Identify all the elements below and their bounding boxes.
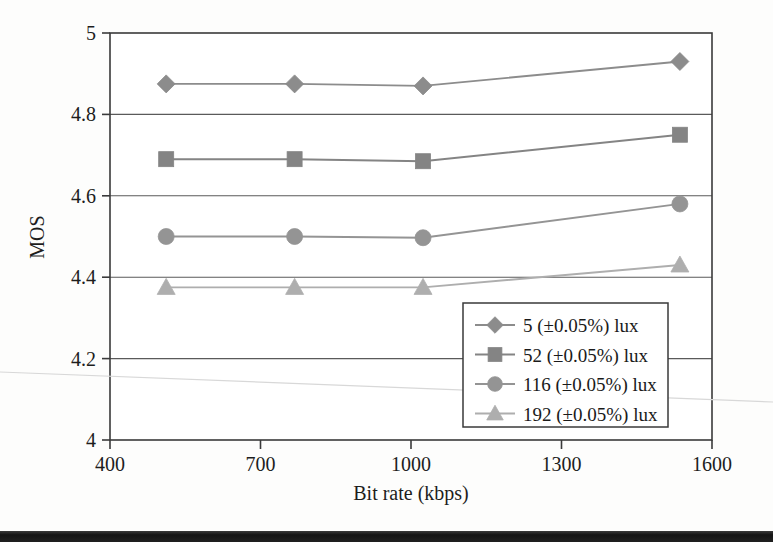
x-tick-label: 1000 xyxy=(391,453,431,475)
y-tick-label: 5 xyxy=(86,22,96,44)
legend-item-label: 5 (±0.05%) lux xyxy=(523,315,639,337)
circle-marker xyxy=(415,230,431,246)
legend-item-label: 52 (±0.05%) lux xyxy=(523,345,648,367)
scan-edge-bar xyxy=(0,531,773,542)
legend: 5 (±0.05%) lux52 (±0.05%) lux116 (±0.05%… xyxy=(463,303,668,427)
legend-item-label: 116 (±0.05%) lux xyxy=(523,374,657,396)
circle-marker xyxy=(672,196,688,212)
square-marker xyxy=(159,152,174,167)
x-axis-title: Bit rate (kbps) xyxy=(353,482,469,505)
circle-marker xyxy=(287,229,303,245)
y-tick-label: 4.4 xyxy=(71,266,96,288)
square-marker xyxy=(672,127,687,142)
legend-item-label: 192 (±0.05%) lux xyxy=(523,404,658,426)
y-axis-title: MOS xyxy=(26,215,48,258)
y-tick-label: 4.8 xyxy=(71,103,96,125)
square-marker xyxy=(416,154,431,169)
x-tick-label: 700 xyxy=(246,453,276,475)
x-tick-label: 1300 xyxy=(542,453,582,475)
chart-plot: 44.24.44.64.85 400700100013001600 MOS Bi… xyxy=(0,0,773,542)
y-tick-label: 4.6 xyxy=(71,185,96,207)
figure-canvas: 44.24.44.64.85 400700100013001600 MOS Bi… xyxy=(0,0,773,542)
square-marker xyxy=(287,152,302,167)
circle-marker xyxy=(158,229,174,245)
x-axis-ticks: 400700100013001600 xyxy=(95,440,732,475)
y-tick-label: 4.2 xyxy=(71,348,96,370)
y-axis-ticks: 44.24.44.64.85 xyxy=(71,22,110,451)
circle-marker xyxy=(488,377,503,392)
x-tick-label: 400 xyxy=(95,453,125,475)
x-tick-label: 1600 xyxy=(692,453,732,475)
y-tick-label: 4 xyxy=(86,429,96,451)
square-marker xyxy=(488,348,502,362)
